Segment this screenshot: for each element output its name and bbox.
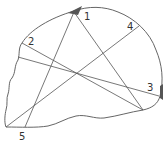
line-2-to-bottom-right — [22, 43, 143, 110]
skull-diagram: 1 2 3 4 5 — [0, 0, 166, 142]
line-left-to-3 — [18, 57, 159, 96]
label-3: 3 — [147, 82, 153, 93]
label-5: 5 — [19, 131, 25, 142]
point-3-mark — [160, 84, 163, 100]
label-2: 2 — [28, 36, 34, 47]
line-1-to-5 — [25, 12, 74, 127]
label-1: 1 — [84, 11, 90, 22]
label-4: 4 — [127, 21, 133, 32]
